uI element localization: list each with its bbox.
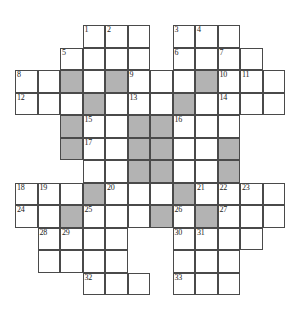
crossword-cell[interactable]: 26 bbox=[173, 205, 196, 228]
crossword-cell[interactable] bbox=[105, 160, 128, 183]
cell-number: 2 bbox=[107, 25, 111, 34]
crossword-cell[interactable] bbox=[83, 250, 106, 273]
crossword-cell[interactable] bbox=[105, 115, 128, 138]
crossword-cell[interactable] bbox=[60, 93, 83, 116]
crossword-cell[interactable] bbox=[38, 70, 61, 93]
crossword-cell[interactable] bbox=[105, 93, 128, 116]
crossword-cell[interactable]: 18 bbox=[15, 183, 38, 206]
crossword-cell[interactable] bbox=[173, 160, 196, 183]
crossword-cell[interactable] bbox=[83, 70, 106, 93]
crossword-cell[interactable] bbox=[263, 183, 286, 206]
crossword-cell[interactable] bbox=[195, 115, 218, 138]
crossword-cell[interactable]: 31 bbox=[195, 228, 218, 251]
crossword-cell[interactable] bbox=[60, 250, 83, 273]
crossword-cell[interactable]: 3 bbox=[173, 25, 196, 48]
crossword-block-cell bbox=[218, 160, 241, 183]
crossword-block-cell bbox=[128, 115, 151, 138]
crossword-cell[interactable]: 13 bbox=[128, 93, 151, 116]
crossword-cell[interactable] bbox=[195, 250, 218, 273]
crossword-cell[interactable] bbox=[128, 48, 151, 71]
cell-number: 19 bbox=[40, 183, 48, 192]
crossword-cell[interactable]: 16 bbox=[173, 115, 196, 138]
crossword-cell[interactable] bbox=[195, 48, 218, 71]
crossword-cell[interactable]: 20 bbox=[105, 183, 128, 206]
crossword-puzzle: 1234567891011121314151617181920212223242… bbox=[0, 0, 300, 317]
crossword-cell[interactable]: 32 bbox=[83, 273, 106, 296]
crossword-cell[interactable] bbox=[240, 48, 263, 71]
crossword-cell[interactable] bbox=[218, 250, 241, 273]
crossword-cell[interactable] bbox=[218, 25, 241, 48]
crossword-cell[interactable] bbox=[240, 93, 263, 116]
crossword-cell[interactable]: 30 bbox=[173, 228, 196, 251]
crossword-cell[interactable] bbox=[38, 93, 61, 116]
crossword-cell[interactable]: 12 bbox=[15, 93, 38, 116]
crossword-cell[interactable]: 29 bbox=[60, 228, 83, 251]
crossword-cell[interactable] bbox=[150, 93, 173, 116]
crossword-cell[interactable]: 7 bbox=[218, 48, 241, 71]
crossword-cell[interactable] bbox=[38, 205, 61, 228]
crossword-grid[interactable]: 1234567891011121314151617181920212223242… bbox=[15, 25, 285, 295]
crossword-cell[interactable]: 33 bbox=[173, 273, 196, 296]
crossword-cell[interactable] bbox=[195, 93, 218, 116]
cell-number: 3 bbox=[175, 25, 179, 34]
crossword-cell[interactable]: 4 bbox=[195, 25, 218, 48]
crossword-cell[interactable] bbox=[173, 138, 196, 161]
crossword-cell[interactable]: 2 bbox=[105, 25, 128, 48]
crossword-cell[interactable]: 8 bbox=[15, 70, 38, 93]
crossword-cell[interactable] bbox=[105, 48, 128, 71]
crossword-cell[interactable]: 19 bbox=[38, 183, 61, 206]
crossword-cell[interactable] bbox=[240, 205, 263, 228]
cell-number: 31 bbox=[197, 228, 205, 237]
crossword-cell[interactable]: 21 bbox=[195, 183, 218, 206]
crossword-cell[interactable] bbox=[83, 160, 106, 183]
crossword-cell[interactable] bbox=[263, 93, 286, 116]
crossword-cell[interactable]: 11 bbox=[240, 70, 263, 93]
crossword-cell[interactable]: 6 bbox=[173, 48, 196, 71]
crossword-cell[interactable] bbox=[150, 70, 173, 93]
crossword-cell[interactable] bbox=[38, 250, 61, 273]
crossword-cell[interactable] bbox=[218, 228, 241, 251]
crossword-cell[interactable]: 15 bbox=[83, 115, 106, 138]
crossword-cell[interactable] bbox=[83, 48, 106, 71]
crossword-cell[interactable]: 25 bbox=[83, 205, 106, 228]
crossword-cell[interactable] bbox=[105, 138, 128, 161]
crossword-cell[interactable] bbox=[150, 183, 173, 206]
crossword-cell[interactable] bbox=[218, 273, 241, 296]
crossword-cell[interactable] bbox=[105, 250, 128, 273]
crossword-cell[interactable] bbox=[195, 273, 218, 296]
crossword-cell[interactable] bbox=[173, 250, 196, 273]
crossword-cell[interactable] bbox=[195, 160, 218, 183]
crossword-cell[interactable]: 23 bbox=[240, 183, 263, 206]
crossword-cell[interactable]: 24 bbox=[15, 205, 38, 228]
crossword-cell[interactable]: 5 bbox=[60, 48, 83, 71]
crossword-cell[interactable]: 17 bbox=[83, 138, 106, 161]
crossword-cell[interactable] bbox=[105, 273, 128, 296]
crossword-cell[interactable]: 22 bbox=[218, 183, 241, 206]
crossword-cell[interactable] bbox=[128, 183, 151, 206]
crossword-cell[interactable]: 28 bbox=[38, 228, 61, 251]
crossword-cell[interactable] bbox=[128, 25, 151, 48]
crossword-cell[interactable]: 1 bbox=[83, 25, 106, 48]
crossword-cell[interactable] bbox=[83, 228, 106, 251]
crossword-cell[interactable]: 27 bbox=[218, 205, 241, 228]
crossword-cell[interactable] bbox=[128, 273, 151, 296]
crossword-cell[interactable]: 14 bbox=[218, 93, 241, 116]
crossword-cell[interactable] bbox=[263, 70, 286, 93]
crossword-cell[interactable] bbox=[173, 70, 196, 93]
crossword-block-cell bbox=[60, 205, 83, 228]
crossword-cell[interactable] bbox=[105, 205, 128, 228]
crossword-cell[interactable] bbox=[60, 183, 83, 206]
cell-number: 13 bbox=[130, 93, 138, 102]
cell-number: 6 bbox=[175, 48, 179, 57]
crossword-cell[interactable] bbox=[263, 205, 286, 228]
crossword-cell[interactable]: 10 bbox=[218, 70, 241, 93]
crossword-cell[interactable] bbox=[105, 228, 128, 251]
cell-number: 24 bbox=[17, 205, 25, 214]
cell-number: 15 bbox=[85, 115, 93, 124]
crossword-block-cell bbox=[173, 183, 196, 206]
crossword-cell[interactable] bbox=[195, 138, 218, 161]
crossword-cell[interactable] bbox=[128, 205, 151, 228]
crossword-cell[interactable] bbox=[240, 228, 263, 251]
crossword-cell[interactable] bbox=[218, 115, 241, 138]
crossword-cell[interactable]: 9 bbox=[128, 70, 151, 93]
